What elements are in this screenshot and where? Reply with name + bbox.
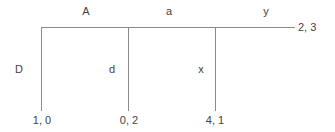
action-label-A: A xyxy=(82,5,89,17)
action-label-D: D xyxy=(15,63,23,75)
main-path-line xyxy=(41,27,295,28)
branch-line-3 xyxy=(215,27,216,111)
final-payoff-label: 2, 3 xyxy=(298,21,316,33)
payoff-label-3: 4, 1 xyxy=(206,114,224,126)
game-tree-diagram: A a y D d x 1, 0 0, 2 4, 1 2, 3 xyxy=(0,0,335,132)
action-label-y: y xyxy=(263,5,269,17)
action-label-d: d xyxy=(109,63,115,75)
payoff-label-2: 0, 2 xyxy=(120,114,138,126)
action-label-a: a xyxy=(166,5,172,17)
branch-line-1 xyxy=(41,27,42,111)
action-label-x: x xyxy=(198,63,204,75)
payoff-label-1: 1, 0 xyxy=(33,114,51,126)
branch-line-2 xyxy=(128,27,129,111)
